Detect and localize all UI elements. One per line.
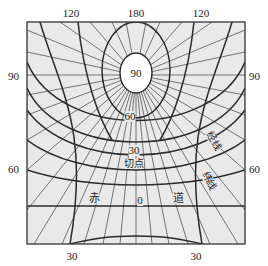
right-label-60: 60 xyxy=(249,164,260,175)
bottom-label-30-right: 30 xyxy=(191,251,202,262)
pole-label-90: 90 xyxy=(131,68,142,79)
latitude-label-60: 60 xyxy=(125,111,136,122)
right-label-90: 90 xyxy=(249,71,260,82)
bottom-label-30-left: 30 xyxy=(67,251,78,262)
equator-label-right: 道 xyxy=(173,193,184,204)
left-label-60: 60 xyxy=(8,164,19,175)
graticule-diagram xyxy=(0,0,268,266)
left-label-90: 90 xyxy=(8,71,19,82)
equator-label-zero: 0 xyxy=(137,195,143,206)
latitude-label-30: 30 xyxy=(129,145,140,156)
tangent-point-label: 切点 xyxy=(124,159,144,169)
equator-label-left: 赤 xyxy=(89,193,100,204)
top-label-120-left: 120 xyxy=(63,8,80,19)
top-label-180: 180 xyxy=(128,8,145,19)
top-label-120-right: 120 xyxy=(193,8,210,19)
